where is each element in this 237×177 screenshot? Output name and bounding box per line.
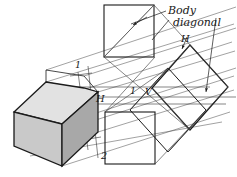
square-rotated-outline xyxy=(152,45,228,130)
label-point-1-mid: 1 xyxy=(130,85,136,96)
label-plane-h-right: H xyxy=(180,33,190,44)
construction-line xyxy=(105,68,168,112)
descriptive-geometry-diagram: Body diagonal 1 2 H 1 V H xyxy=(0,0,237,177)
projection-ray xyxy=(84,28,236,76)
square-bottom-projection xyxy=(105,112,155,164)
technical-drawing-figure: Body diagonal 1 2 H 1 V H xyxy=(0,0,237,177)
square-rotated-diagonal xyxy=(152,88,190,130)
square-bottom-outline xyxy=(105,112,155,164)
body-diagonal-label-line2: diagonal xyxy=(173,16,221,29)
shaded-cube xyxy=(14,70,98,166)
label-plane-h-left: H xyxy=(95,93,105,104)
construction-line xyxy=(155,110,206,164)
label-point-1-upper: 1 xyxy=(75,59,81,70)
construction-line xyxy=(104,5,154,57)
arrow-right-vertical xyxy=(206,18,216,92)
projection-ray xyxy=(98,90,234,132)
label-point-v-mid: V xyxy=(145,86,153,97)
square-rotated-outline-secondary xyxy=(130,68,206,152)
body-diagonal-callout-upper xyxy=(131,11,166,24)
construction-line xyxy=(130,45,190,110)
label-point-2-lower: 2 xyxy=(100,150,107,161)
